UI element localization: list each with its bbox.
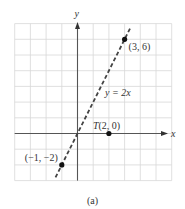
line-equation-label: y = 2x [104, 87, 131, 98]
point-label: (3, 6) [129, 41, 151, 53]
point-marker [106, 131, 111, 136]
y-axis-arrow-icon [75, 22, 80, 29]
point-marker [122, 37, 127, 42]
point-marker [59, 162, 64, 167]
graph-svg: x y y = 2x (3, 6)(−1, −2)T(2, 0) [0, 0, 185, 209]
x-axis-arrow-icon [161, 131, 168, 136]
x-axis-label: x [170, 128, 176, 139]
coordinate-plane-figure: x y y = 2x (3, 6)(−1, −2)T(2, 0) (a) [0, 0, 185, 209]
y-axis-label: y [74, 8, 80, 19]
point-label: (−1, −2) [25, 152, 58, 164]
figure-caption: (a) [0, 195, 185, 206]
point-label: T(2, 0) [93, 120, 120, 132]
